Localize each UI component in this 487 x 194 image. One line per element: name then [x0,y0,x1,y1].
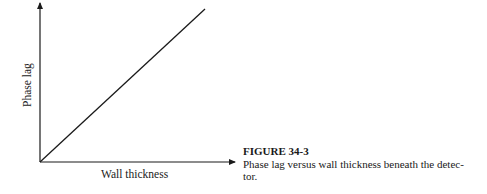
x-axis-label: Wall thickness [101,168,168,180]
figure: Phase lag Wall thickness FIGURE 34-3 Pha… [0,0,487,194]
figure-number: FIGURE 34-3 [243,145,468,158]
caption-text: Phase lag versus wall thickness beneath … [243,158,468,183]
data-line [40,9,205,162]
y-axis-label: Phase lag [21,63,33,107]
figure-caption: FIGURE 34-3 Phase lag versus wall thickn… [243,145,468,183]
